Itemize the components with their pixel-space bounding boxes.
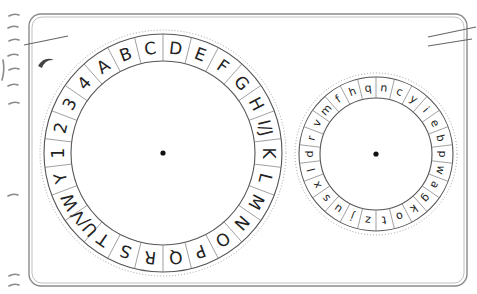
wheel-letter: Y (49, 170, 71, 186)
wheel-letter: e (428, 117, 443, 129)
crescent-mark (38, 59, 54, 68)
segment-divider (254, 164, 281, 167)
wheel-letter: p (436, 151, 449, 158)
segment-divider (185, 242, 191, 268)
wheel-letter: k (407, 202, 420, 217)
wheel-letter: I/J (254, 118, 277, 138)
wheel-letter: t (380, 213, 387, 227)
tape-strip-right-2 (428, 39, 472, 46)
wheel-letter: H (245, 94, 269, 115)
tape-strip-right-1 (428, 27, 476, 37)
wheel-letter: u (332, 201, 345, 216)
wheel-letter: F (213, 55, 232, 77)
large-cipher-wheel[interactable]: DEFGHI/JKLMNOPQRSTU/VWY1234ABC (40, 30, 286, 276)
segment-divider (135, 37, 141, 63)
center-pivot-dot (373, 151, 378, 156)
cipher-wheel-card: DEFGHI/JKLMNOPQRSTU/VWY1234ABC ncyiebpwa… (0, 0, 477, 294)
segment-divider (300, 161, 321, 164)
wheel-letter: h (347, 84, 358, 99)
wheel-letter: x (310, 179, 325, 191)
wheel-letter: O (212, 228, 234, 252)
wheel-letter: o (394, 209, 405, 224)
segment-divider (185, 37, 191, 63)
wheel-letter: Q (168, 247, 184, 268)
segment-divider (45, 164, 72, 167)
wheel-letter: g (419, 191, 433, 205)
wheel-letter: E (192, 43, 209, 66)
segment-divider (358, 208, 363, 228)
wheel-letter: j (349, 210, 357, 224)
segment-divider (254, 139, 281, 142)
wheel-letter: K (259, 147, 279, 159)
segment-divider (135, 242, 141, 268)
center-pivot-dot (160, 150, 165, 155)
wheel-letter: w (433, 164, 448, 176)
wheel-letter: M (244, 191, 269, 213)
wheel-letter: v (310, 117, 325, 129)
segment-divider (432, 161, 453, 164)
tape-strip-left (24, 36, 68, 45)
wheel-letter: A (93, 54, 114, 77)
wheel-letter: f (333, 92, 344, 106)
wheel-letter: s (319, 191, 333, 204)
wheel-letter: a (428, 179, 443, 191)
wheel-letter: y (407, 92, 420, 107)
wheel-letter: c (394, 85, 404, 99)
wheel-letter: C (143, 38, 157, 59)
wheel-letter: r (305, 134, 319, 142)
wheel-letter: S (117, 240, 134, 263)
wheel-letter: P (192, 240, 209, 262)
segment-divider (45, 139, 72, 142)
wheel-letter: b (433, 133, 447, 143)
wheel-letter: D (168, 38, 183, 59)
wheel-letter: 1 (48, 148, 68, 159)
wheel-letter: q (364, 81, 373, 95)
segment-divider (300, 145, 321, 148)
wheel-letter: i (420, 104, 432, 115)
wheel-letter: 3 (58, 95, 81, 114)
wheel-letter: d (303, 151, 316, 158)
wheel-letter: z (364, 213, 372, 227)
wheel-letter: n (380, 81, 389, 95)
segment-divider (358, 79, 363, 99)
small-cipher-wheel[interactable]: ncyiebpwagkotzjusxldrvmfhq (295, 73, 457, 235)
wheel-letter: 4 (73, 72, 95, 93)
segment-divider (389, 79, 394, 99)
wheel-letter: 2 (50, 120, 72, 135)
wheel-letter: G (230, 71, 254, 94)
segment-divider (432, 145, 453, 148)
wheel-letter: N (230, 212, 253, 235)
wheel-letter: R (143, 247, 157, 268)
wheel-letter: L (254, 171, 276, 185)
wheel-letter: l (305, 167, 318, 173)
binding-marks (2, 14, 19, 286)
segment-divider (389, 208, 394, 228)
wheel-letter: B (117, 43, 135, 66)
